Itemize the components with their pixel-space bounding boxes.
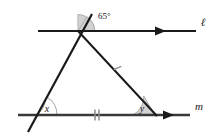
diagram-canvas: 65° x y ℓ m bbox=[0, 0, 221, 136]
angle-label-65: 65° bbox=[98, 11, 111, 21]
tick-mark-hypotenuse bbox=[114, 66, 122, 69]
angle-label-y: y bbox=[139, 103, 145, 114]
line-label-m: m bbox=[195, 100, 203, 112]
geometry-diagram: 65° x y ℓ m bbox=[0, 0, 221, 136]
segment-apex-to-bottom-right bbox=[78, 31, 157, 116]
angle-label-x: x bbox=[44, 103, 50, 114]
line-l-arrowhead-icon bbox=[155, 27, 166, 36]
line-label-l: ℓ bbox=[201, 16, 206, 28]
line-m-arrowhead-icon bbox=[163, 111, 174, 120]
